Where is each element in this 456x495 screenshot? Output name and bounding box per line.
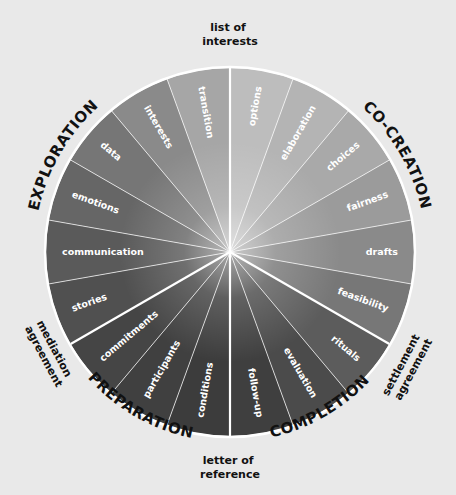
segment-label-communication: communication [62,246,144,257]
milestone-letter-of-reference: letter of reference [200,454,260,481]
segment-label-drafts: drafts [366,246,399,257]
milestone-list-of-interests: list of interests [202,21,258,48]
wheel-svg: optionselaborationchoicesfairnessdraftsf… [0,0,456,495]
mediation-wheel-diagram: optionselaborationchoicesfairnessdraftsf… [0,0,456,495]
